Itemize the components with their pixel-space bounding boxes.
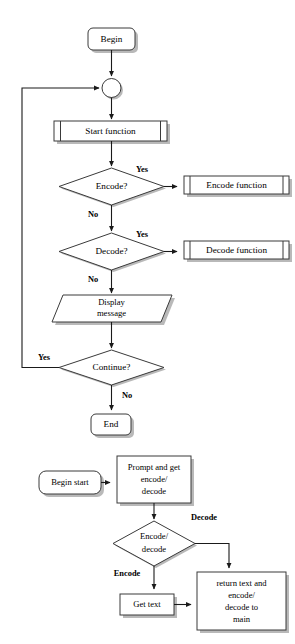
node-encode-decision-label: Encode?	[96, 181, 128, 191]
node-ed-decision-label-1: Encode/	[140, 531, 169, 541]
node-begin-start-label: Begin start	[51, 477, 89, 487]
node-begin-start: Begin start	[39, 471, 104, 497]
flowchart-canvas: Begin Start function Encode? Yes	[0, 0, 295, 644]
node-connector	[102, 79, 123, 100]
edge-label-decode-no: No	[88, 275, 98, 284]
node-prompt-get-label-3: decode	[142, 486, 167, 496]
edge-label-ed-encode: Encode	[114, 569, 141, 578]
node-decode-decision: Decode?	[59, 233, 166, 272]
node-return-main-label-3: decode to	[225, 602, 258, 612]
node-end-label: End	[104, 419, 119, 429]
node-ed-decision: Encode/ decode	[113, 521, 197, 568]
node-prompt-get: Prompt and get encode/ decode	[117, 456, 194, 506]
node-continue-decision: Continue?	[59, 350, 166, 387]
node-encode-decision: Encode?	[59, 168, 166, 207]
edge-label-continue-no: No	[122, 391, 132, 400]
node-display-message: Display message	[52, 295, 175, 325]
edge-label-encode-yes: Yes	[136, 165, 149, 174]
node-get-text: Get text	[120, 594, 177, 618]
node-decode-function-label: Decode function	[206, 245, 267, 255]
node-ed-decision-label-2: decode	[142, 544, 167, 554]
edge-label-encode-no: No	[88, 210, 98, 219]
node-return-main-label-1: return text and	[216, 578, 267, 588]
node-decode-decision-label: Decode?	[95, 246, 127, 256]
flowchart-diagram: Begin Start function Encode? Yes	[0, 0, 295, 644]
node-get-text-label: Get text	[133, 599, 161, 609]
node-encode-function: Encode function	[184, 176, 292, 197]
edge-label-decode-yes: Yes	[136, 230, 149, 239]
node-return-main: return text and encode/ decode to main	[197, 572, 289, 633]
node-return-main-label-4: main	[233, 614, 251, 624]
node-prompt-get-label-2: encode/	[141, 474, 168, 484]
node-begin-label: Begin	[101, 34, 123, 44]
node-begin: Begin	[88, 28, 138, 53]
edge-label-ed-decode: Decode	[191, 513, 217, 522]
edge-label-continue-yes: Yes	[38, 353, 51, 362]
node-return-main-label-2: encode/	[228, 590, 255, 600]
node-display-message-label-2: message	[97, 308, 126, 318]
node-encode-function-label: Encode function	[206, 180, 267, 190]
node-start-function: Start function	[54, 121, 170, 144]
node-decode-function: Decode function	[184, 241, 292, 262]
node-start-function-label: Start function	[85, 126, 136, 136]
node-continue-decision-label: Continue?	[93, 362, 131, 372]
node-display-message-label-1: Display	[98, 297, 125, 307]
node-prompt-get-label-1: Prompt and get	[128, 462, 181, 472]
edge-ed-decode	[195, 544, 229, 569]
node-end: End	[91, 414, 134, 438]
